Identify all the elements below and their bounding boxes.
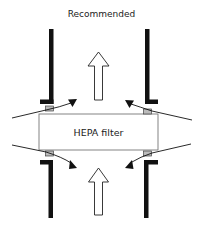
- wall-bottom-left: [40, 160, 53, 218]
- arrowhead-icon: [69, 160, 77, 169]
- airflow-up-arrow-top: [88, 52, 109, 100]
- hepa-filter-diagram: Recommended HEPA filter: [0, 0, 203, 250]
- diagram-title: Recommended: [68, 9, 136, 19]
- arrowhead-icon: [125, 100, 134, 108]
- wall-top-left: [40, 29, 54, 104]
- airflow-up-arrow-bottom: [89, 168, 109, 215]
- wall-top-right: [145, 29, 158, 104]
- wall-bottom-right: [144, 160, 158, 218]
- hepa-filter-label: HEPA filter: [74, 127, 124, 138]
- arrowhead-icon: [68, 99, 77, 107]
- hepa-filter: HEPA filter: [39, 114, 158, 150]
